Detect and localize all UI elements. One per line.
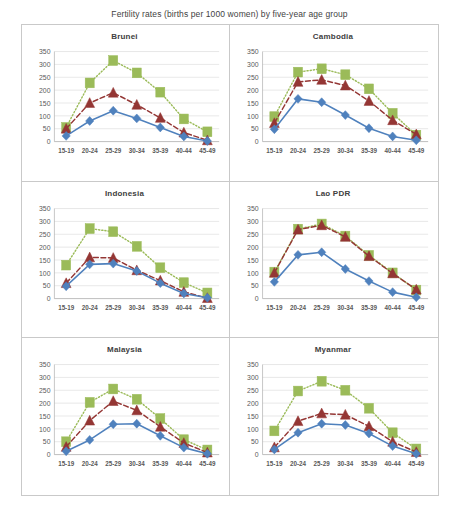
svg-text:50: 50: [42, 439, 50, 447]
small-multiples-grid: Brunei 35030025020015010050015-1920-2425…: [21, 24, 439, 496]
plot-svg-cambodia: 35030025020015010050015-1920-2425-2930-3…: [232, 42, 435, 167]
panel-cell-malaysia: Malaysia 35030025020015010050015-1920-24…: [22, 338, 230, 495]
svg-text:15-19: 15-19: [58, 460, 74, 467]
plot-area-indonesia: 35030025020015010050015-1920-2425-2930-3…: [24, 199, 226, 324]
plot-svg-lao-pdr: 35030025020015010050015-1920-2425-2930-3…: [232, 199, 435, 324]
plot-area-myanmar: 35030025020015010050015-1920-2425-2930-3…: [232, 355, 435, 480]
svg-text:250: 250: [39, 230, 50, 238]
svg-text:100: 100: [39, 426, 50, 434]
svg-text:35-39: 35-39: [152, 147, 168, 154]
svg-text:250: 250: [247, 230, 259, 238]
svg-text:250: 250: [39, 74, 50, 82]
svg-text:300: 300: [247, 61, 259, 69]
svg-text:45-49: 45-49: [199, 460, 215, 467]
svg-text:100: 100: [39, 269, 50, 277]
svg-text:350: 350: [247, 48, 259, 56]
svg-text:100: 100: [247, 112, 259, 120]
svg-text:15-19: 15-19: [266, 147, 282, 154]
figure-title: Fertility rates (births per 1000 women) …: [0, 0, 459, 24]
chart-panel-brunei: Brunei 35030025020015010050015-1920-2425…: [24, 27, 226, 180]
svg-text:50: 50: [42, 125, 50, 133]
svg-text:300: 300: [39, 61, 50, 69]
svg-text:0: 0: [254, 295, 258, 303]
svg-text:15-19: 15-19: [266, 304, 282, 311]
svg-text:15-19: 15-19: [266, 460, 282, 467]
svg-text:25-29: 25-29: [105, 147, 121, 154]
svg-text:50: 50: [250, 125, 258, 133]
plot-svg-myanmar: 35030025020015010050015-1920-2425-2930-3…: [232, 355, 435, 480]
panel-cell-indonesia: Indonesia 35030025020015010050015-1920-2…: [22, 182, 230, 339]
chart-panel-lao-pdr: Lao PDR 35030025020015010050015-1920-242…: [232, 184, 435, 337]
svg-text:20-24: 20-24: [289, 304, 305, 311]
svg-text:100: 100: [39, 112, 50, 120]
svg-text:25-29: 25-29: [105, 460, 121, 467]
svg-text:150: 150: [247, 100, 259, 108]
svg-text:150: 150: [39, 256, 50, 264]
svg-text:50: 50: [42, 282, 50, 290]
chart-panel-cambodia: Cambodia 35030025020015010050015-1920-24…: [232, 27, 435, 180]
panel-title-myanmar: Myanmar: [232, 340, 435, 355]
plot-area-cambodia: 35030025020015010050015-1920-2425-2930-3…: [232, 42, 435, 167]
svg-text:200: 200: [247, 87, 259, 95]
panel-title-malaysia: Malaysia: [24, 340, 226, 355]
svg-text:350: 350: [247, 205, 259, 213]
svg-text:20-24: 20-24: [289, 460, 305, 467]
plot-svg-brunei: 35030025020015010050015-1920-2425-2930-3…: [24, 42, 226, 167]
svg-text:200: 200: [39, 87, 50, 95]
svg-text:40-44: 40-44: [175, 304, 191, 311]
svg-text:20-24: 20-24: [81, 460, 97, 467]
svg-text:40-44: 40-44: [175, 147, 191, 154]
svg-text:35-39: 35-39: [360, 304, 376, 311]
svg-text:25-29: 25-29: [105, 304, 121, 311]
svg-text:300: 300: [39, 374, 50, 382]
svg-text:30-34: 30-34: [128, 460, 144, 467]
svg-text:20-24: 20-24: [289, 147, 305, 154]
svg-text:150: 150: [39, 413, 50, 421]
panel-cell-cambodia: Cambodia 35030025020015010050015-1920-24…: [230, 25, 438, 182]
figure-root: Fertility rates (births per 1000 women) …: [0, 0, 459, 529]
svg-text:35-39: 35-39: [152, 460, 168, 467]
chart-panel-indonesia: Indonesia 35030025020015010050015-1920-2…: [24, 184, 226, 337]
svg-text:200: 200: [247, 400, 259, 408]
svg-text:35-39: 35-39: [360, 460, 376, 467]
panel-cell-lao-pdr: Lao PDR 35030025020015010050015-1920-242…: [230, 182, 438, 339]
svg-text:30-34: 30-34: [128, 147, 144, 154]
svg-text:40-44: 40-44: [384, 147, 400, 154]
svg-text:200: 200: [247, 243, 259, 251]
plot-area-brunei: 35030025020015010050015-1920-2425-2930-3…: [24, 42, 226, 167]
svg-text:30-34: 30-34: [337, 460, 353, 467]
svg-text:200: 200: [39, 400, 50, 408]
svg-text:350: 350: [39, 205, 50, 213]
svg-text:250: 250: [247, 74, 259, 82]
panel-title-indonesia: Indonesia: [24, 184, 226, 199]
plot-svg-malaysia: 35030025020015010050015-1920-2425-2930-3…: [24, 355, 226, 480]
svg-text:250: 250: [39, 387, 50, 395]
svg-text:20-24: 20-24: [81, 147, 97, 154]
svg-text:150: 150: [39, 100, 50, 108]
svg-text:0: 0: [254, 138, 258, 146]
svg-text:200: 200: [39, 243, 50, 251]
svg-text:25-29: 25-29: [313, 460, 329, 467]
chart-panel-myanmar: Myanmar 35030025020015010050015-1920-242…: [232, 340, 435, 494]
plot-svg-indonesia: 35030025020015010050015-1920-2425-2930-3…: [24, 199, 226, 324]
svg-text:100: 100: [247, 426, 259, 434]
svg-text:0: 0: [254, 451, 258, 459]
svg-text:50: 50: [250, 282, 258, 290]
plot-area-malaysia: 35030025020015010050015-1920-2425-2930-3…: [24, 355, 226, 480]
svg-text:15-19: 15-19: [58, 304, 74, 311]
svg-text:350: 350: [39, 48, 50, 56]
chart-panel-malaysia: Malaysia 35030025020015010050015-1920-24…: [24, 340, 226, 494]
svg-text:40-44: 40-44: [384, 304, 400, 311]
svg-text:150: 150: [247, 256, 259, 264]
svg-text:45-49: 45-49: [199, 147, 215, 154]
figure-bottom-spacer: [0, 496, 459, 514]
svg-text:0: 0: [46, 295, 50, 303]
svg-text:30-34: 30-34: [128, 304, 144, 311]
svg-text:40-44: 40-44: [175, 460, 191, 467]
svg-text:15-19: 15-19: [58, 147, 74, 154]
panel-title-brunei: Brunei: [24, 27, 226, 42]
svg-text:50: 50: [250, 439, 258, 447]
svg-text:0: 0: [46, 451, 50, 459]
svg-text:350: 350: [39, 361, 50, 369]
svg-text:300: 300: [247, 374, 259, 382]
